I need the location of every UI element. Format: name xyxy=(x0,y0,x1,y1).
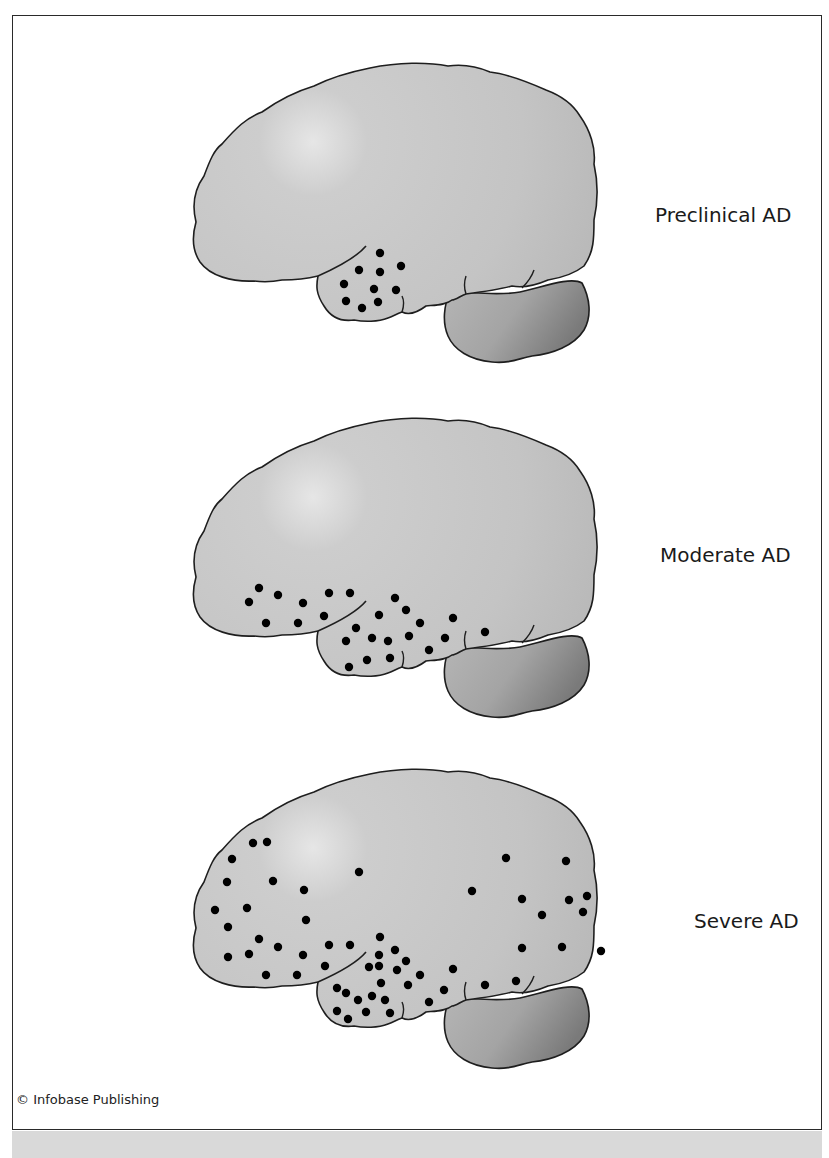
plaque-dot xyxy=(441,634,449,642)
plaque-dot xyxy=(583,892,591,900)
plaque-dot xyxy=(481,628,489,636)
plaque-dot xyxy=(249,839,257,847)
stage-moderate-brain xyxy=(193,418,597,717)
plaque-dot xyxy=(375,962,383,970)
plaque-dot xyxy=(274,591,282,599)
plaque-dot xyxy=(502,854,510,862)
plaque-dot xyxy=(354,996,362,1004)
plaque-dot xyxy=(325,589,333,597)
plaque-dot xyxy=(416,971,424,979)
plaque-dot xyxy=(449,965,457,973)
plaque-dot xyxy=(440,986,448,994)
plaque-dot xyxy=(333,984,341,992)
plaque-dot xyxy=(293,971,301,979)
plaque-dot xyxy=(262,971,270,979)
plaque-dot xyxy=(320,612,328,620)
plaque-dot xyxy=(538,911,546,919)
plaque-dot xyxy=(468,887,476,895)
plaque-dot xyxy=(402,606,410,614)
plaque-dot xyxy=(224,953,232,961)
stage-label-severe: Severe AD xyxy=(694,909,799,933)
plaque-dot xyxy=(274,943,282,951)
plaque-dot xyxy=(362,1008,370,1016)
plaque-dot xyxy=(558,943,566,951)
plaque-dot xyxy=(376,268,384,276)
plaque-dot xyxy=(228,855,236,863)
plaque-dot xyxy=(377,979,385,987)
plaque-dot xyxy=(375,611,383,619)
plaque-dot xyxy=(404,981,412,989)
stage-label-preclinical: Preclinical AD xyxy=(655,203,791,227)
plaque-dot xyxy=(374,298,382,306)
plaque-dot xyxy=(370,285,378,293)
plaque-dot xyxy=(425,998,433,1006)
plaque-dot xyxy=(518,895,526,903)
plaque-dot xyxy=(449,614,457,622)
plaque-dot xyxy=(368,992,376,1000)
plaque-dot xyxy=(365,963,373,971)
plaque-dot xyxy=(597,947,605,955)
plaque-dot xyxy=(579,908,587,916)
plaque-dot xyxy=(405,632,413,640)
plaque-dot xyxy=(211,906,219,914)
plaque-dot xyxy=(342,637,350,645)
plaque-dot xyxy=(376,933,384,941)
plaque-dot xyxy=(368,634,376,642)
plaque-dot xyxy=(358,304,366,312)
stage-severe-brain xyxy=(193,769,605,1068)
stage-label-moderate: Moderate AD xyxy=(660,543,791,567)
plaque-dot xyxy=(512,977,520,985)
plaque-dot xyxy=(352,624,360,632)
plaque-dot xyxy=(363,656,371,664)
plaque-dot xyxy=(255,935,263,943)
plaque-dot xyxy=(386,654,394,662)
plaque-dot xyxy=(384,637,392,645)
plaque-dot xyxy=(397,262,405,270)
plaque-dot xyxy=(416,619,424,627)
plaque-dot xyxy=(562,857,570,865)
stage-preclinical-brain xyxy=(193,63,597,362)
plaque-dot xyxy=(262,619,270,627)
plaque-dot xyxy=(565,896,573,904)
plaque-dot xyxy=(344,1015,352,1023)
plaque-dot xyxy=(355,868,363,876)
plaque-dot xyxy=(386,1009,394,1017)
plaque-dot xyxy=(245,950,253,958)
plaque-dot xyxy=(243,904,251,912)
plaque-dot xyxy=(355,266,363,274)
plaque-dot xyxy=(340,280,348,288)
plaque-dot xyxy=(224,923,232,931)
plaque-dot xyxy=(302,916,310,924)
plaque-dot xyxy=(346,941,354,949)
plaque-dot xyxy=(299,599,307,607)
plaque-dot xyxy=(391,594,399,602)
plaque-dot xyxy=(345,663,353,671)
plaque-dot xyxy=(393,966,401,974)
plaque-dot xyxy=(299,951,307,959)
plaque-dot xyxy=(325,941,333,949)
plaque-dot xyxy=(255,584,263,592)
plaque-dot xyxy=(391,946,399,954)
brain-diagram xyxy=(0,0,829,1158)
plaque-dot xyxy=(333,1007,341,1015)
plaque-dot xyxy=(263,838,271,846)
plaque-dot xyxy=(342,297,350,305)
plaque-dot xyxy=(392,286,400,294)
plaque-dot xyxy=(342,989,350,997)
plaque-dot xyxy=(518,944,526,952)
copyright-credit: © Infobase Publishing xyxy=(16,1092,159,1107)
plaque-dot xyxy=(375,951,383,959)
plaque-dot xyxy=(376,249,384,257)
plaque-dot xyxy=(269,877,277,885)
plaque-dot xyxy=(425,646,433,654)
plaque-dot xyxy=(321,962,329,970)
plaque-dot xyxy=(402,957,410,965)
plaque-dot xyxy=(294,619,302,627)
plaque-dot xyxy=(346,589,354,597)
plaque-dot xyxy=(481,981,489,989)
plaque-dot xyxy=(223,878,231,886)
plaque-dot xyxy=(381,996,389,1004)
plaque-dot xyxy=(300,886,308,894)
plaque-dot xyxy=(245,598,253,606)
